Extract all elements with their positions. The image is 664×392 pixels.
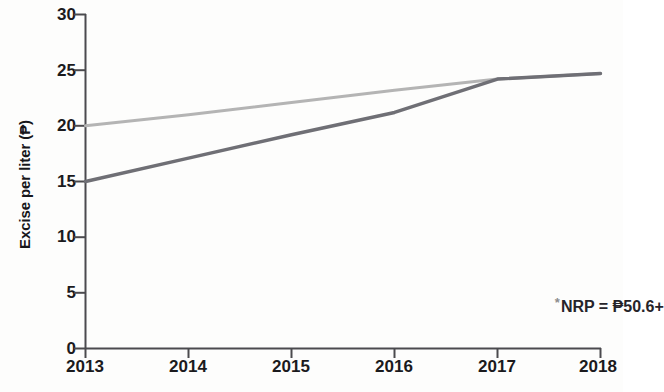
nrp-annotation-text: NRP = ₱50.6+ [561,298,664,315]
nrp-annotation: *NRP = ₱50.6+ [555,295,664,316]
line-series-lower [86,74,601,182]
line-series-upper [86,74,601,126]
asterisk-icon: * [555,295,560,310]
